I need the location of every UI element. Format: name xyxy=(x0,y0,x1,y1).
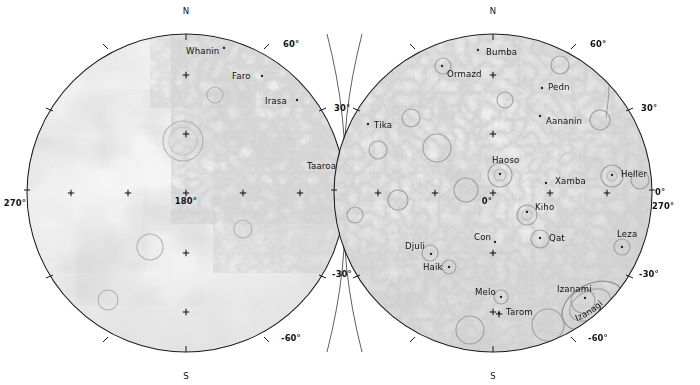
feature-marker-dot xyxy=(539,115,541,117)
feature-melo: Melo xyxy=(475,287,496,297)
lon-270: 270° xyxy=(652,201,674,211)
feature-pedn: Pedn xyxy=(548,82,570,92)
feature-taaroa: Taaroa xyxy=(306,161,336,171)
feature-marker-dot xyxy=(545,182,547,184)
feature-leza: Leza xyxy=(617,229,637,239)
feature-marker-dot xyxy=(498,312,500,314)
feature-marker-dot xyxy=(526,211,528,213)
planetary-map-figure: NS 60°30°90°-30°-60°270° WhaninFaroIrasa… xyxy=(0,0,700,385)
feature-con: Con xyxy=(474,232,491,242)
lon-0: 0° xyxy=(655,187,665,197)
feature-marker-dot xyxy=(223,47,225,49)
feature-faro: Faro xyxy=(232,71,251,81)
left-hemisphere-terrain xyxy=(20,3,363,360)
feature-marker-dot xyxy=(539,237,541,239)
lat-30-south: -30° xyxy=(639,269,659,279)
feature-djuli: Djuli xyxy=(405,241,425,251)
feature-haik: Haik xyxy=(423,262,443,272)
feature-marker-dot xyxy=(261,75,263,77)
lat-60-north: 60° xyxy=(590,39,606,49)
feature-marker-dot xyxy=(499,173,501,175)
feature-marker-dot xyxy=(541,87,543,89)
hemispheres-svg: NS 60°30°90°-30°-60°270° WhaninFaroIrasa… xyxy=(0,0,700,385)
lat-60-north: 60° xyxy=(283,39,299,49)
feature-qat: Qat xyxy=(549,233,565,243)
feature-marker-dot xyxy=(611,174,613,176)
south-label: S xyxy=(490,371,496,381)
lat-30-south: -30° xyxy=(332,269,352,279)
feature-marker-dot xyxy=(494,241,496,243)
feature-tika: Tika xyxy=(373,120,392,130)
lon-270: 270° xyxy=(4,198,26,208)
lat-60-south: -60° xyxy=(281,333,301,343)
lat-30-north: 30° xyxy=(334,103,350,113)
feature-marker-dot xyxy=(584,297,586,299)
feature-marker-dot xyxy=(296,99,298,101)
feature-marker-dot xyxy=(500,296,502,298)
lat-60-south: -60° xyxy=(588,333,608,343)
feature-marker-dot xyxy=(448,266,450,268)
north-label: N xyxy=(490,6,497,16)
right-center-longitude-label: 0° xyxy=(482,196,492,206)
feature-ormazd: Ormazd xyxy=(447,69,482,79)
lat-30-north: 30° xyxy=(641,103,657,113)
left-hemisphere: NS 60°30°90°-30°-60°270° WhaninFaroIrasa… xyxy=(4,3,363,381)
feature-xamba: Xamba xyxy=(555,176,586,186)
feature-marker-dot xyxy=(477,49,479,51)
feature-marker-dot xyxy=(441,65,443,67)
feature-izanami: Izanami xyxy=(557,284,592,294)
feature-kiho: Kiho xyxy=(535,202,554,212)
feature-marker-dot xyxy=(621,246,623,248)
south-label: S xyxy=(183,371,189,381)
feature-aananin: Aananin xyxy=(546,116,582,126)
feature-marker-dot xyxy=(430,253,432,255)
feature-marker-dot xyxy=(367,123,369,125)
feature-bumba: Bumba xyxy=(486,47,517,57)
left-center-longitude-label: 180° xyxy=(175,196,197,206)
north-label: N xyxy=(183,6,190,16)
feature-heller: Heller xyxy=(621,169,648,179)
feature-haoso: Haoso xyxy=(492,155,519,165)
feature-tarom: Tarom xyxy=(505,307,533,317)
right-hemisphere: NS 60°30°0°270°-30°-60° BumbaOrmazdPednA… xyxy=(330,6,674,381)
feature-whanin: Whanin xyxy=(186,46,219,56)
feature-irasa: Irasa xyxy=(265,96,287,106)
